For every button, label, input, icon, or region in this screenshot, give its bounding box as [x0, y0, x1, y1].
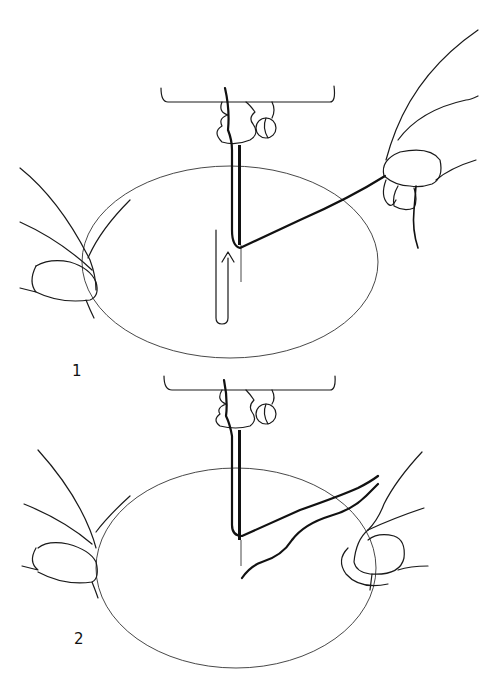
right-hand-step-2 — [341, 452, 428, 590]
thread-loop — [242, 484, 378, 578]
needle — [238, 430, 241, 540]
step-label-2: 2 — [74, 630, 84, 648]
embroidery-hoop — [82, 166, 378, 358]
needle — [238, 145, 241, 245]
needle-clamp — [217, 102, 256, 144]
thread — [225, 88, 385, 248]
needle-clamp — [216, 390, 255, 428]
machine-arm — [161, 86, 335, 102]
left-hand-step-2 — [22, 450, 130, 598]
step-2-drawing — [22, 376, 428, 668]
illustration — [0, 0, 486, 699]
left-hand-step-1 — [20, 168, 130, 318]
step-label-1: 1 — [72, 362, 82, 380]
right-hand-step-1 — [383, 30, 478, 248]
machine-arm — [164, 376, 335, 390]
thread — [224, 380, 378, 536]
upward-arrow — [216, 230, 228, 324]
step-1-drawing — [20, 30, 478, 358]
